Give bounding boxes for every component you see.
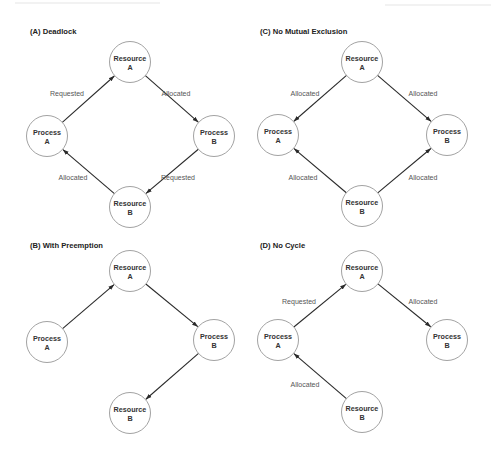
node-resA: ResourceA xyxy=(342,251,383,292)
node-label-line1: Resource xyxy=(346,198,379,207)
node-procA: ProcessA xyxy=(258,320,299,361)
panel-title: (C) No Mutual Exclusion xyxy=(260,27,348,36)
node-resB: ResourceB xyxy=(342,392,383,433)
node-resA: ResourceA xyxy=(342,42,383,83)
edge-label: Requested xyxy=(50,90,84,98)
node-label-line1: Resource xyxy=(346,404,379,413)
node-label-line2: A xyxy=(44,137,49,146)
edge-resB-to-procA xyxy=(63,150,114,194)
node-label-line2: A xyxy=(127,272,132,281)
node-procA: ProcessA xyxy=(27,322,68,363)
node-label-line2: A xyxy=(359,63,364,72)
node-label-line2: B xyxy=(127,208,132,217)
node-procB: ProcessB xyxy=(427,115,468,156)
edge-procA-to-resA xyxy=(62,76,114,122)
edge-label: Allocated xyxy=(409,90,438,97)
node-label-line1: Process xyxy=(33,334,61,343)
node-label-line2: A xyxy=(359,272,364,281)
node-label-line1: Resource xyxy=(114,405,147,414)
node-label-line2: B xyxy=(359,413,364,422)
node-procB: ProcessB xyxy=(427,320,468,361)
edge-label: Allocated xyxy=(409,174,438,181)
node-label-line2: B xyxy=(444,136,449,145)
node-label-line2: A xyxy=(275,341,280,350)
node-label-line1: Process xyxy=(433,332,461,341)
resource-allocation-graphs-figure: (A) DeadlockRequestedAllocatedRequestedA… xyxy=(0,0,491,460)
node-label-line1: Process xyxy=(33,128,61,137)
node-procB: ProcessB xyxy=(194,116,235,157)
node-label-line1: Resource xyxy=(346,263,379,272)
edge-label: Requested xyxy=(282,298,316,306)
node-label-line2: B xyxy=(359,207,364,216)
edge-resB-to-procB xyxy=(378,148,431,192)
edge-label: Allocated xyxy=(162,90,191,97)
node-label-line1: Process xyxy=(264,127,292,136)
node-label-line1: Process xyxy=(433,127,461,136)
node-resB: ResourceB xyxy=(110,393,151,434)
node-label-line1: Resource xyxy=(346,54,379,63)
node-procA: ProcessA xyxy=(258,115,299,156)
panels-root: (A) DeadlockRequestedAllocatedRequestedA… xyxy=(27,27,468,434)
edge-resA-to-procB xyxy=(145,76,198,123)
edge-resB-to-procA xyxy=(294,354,346,399)
edge-label: Allocated xyxy=(291,90,320,97)
edge-resB-to-procA xyxy=(294,149,346,193)
node-resB: ResourceB xyxy=(342,186,383,227)
node-label-line1: Process xyxy=(200,128,228,137)
node-procB: ProcessB xyxy=(194,320,235,361)
edge-resA-to-procB xyxy=(146,284,198,327)
node-procA: ProcessA xyxy=(27,116,68,157)
node-label-line1: Resource xyxy=(114,263,147,272)
edge-label: Allocated xyxy=(409,298,438,305)
panel-title: (B) With Preemption xyxy=(30,241,103,250)
edge-procB-to-resB xyxy=(146,149,198,193)
edge-resA-to-procA xyxy=(294,75,347,121)
node-label-line2: A xyxy=(44,343,49,352)
node-label-line2: B xyxy=(211,341,216,350)
node-label-line2: A xyxy=(275,136,280,145)
node-resB: ResourceB xyxy=(110,187,151,228)
edge-procA-to-resA xyxy=(63,285,114,329)
node-label-line2: A xyxy=(127,63,132,72)
edge-label: Requested xyxy=(161,174,195,182)
node-resA: ResourceA xyxy=(110,251,151,292)
panel-title: (D) No Cycle xyxy=(260,241,305,250)
node-label-line1: Process xyxy=(264,332,292,341)
edge-label: Allocated xyxy=(289,174,318,181)
node-resA: ResourceA xyxy=(110,42,151,83)
node-label-line2: B xyxy=(127,414,132,423)
edge-procB-to-resB xyxy=(146,353,199,399)
node-label-line2: B xyxy=(211,137,216,146)
panel-a: (A) DeadlockRequestedAllocatedRequestedA… xyxy=(27,27,235,228)
node-label-line2: B xyxy=(444,341,449,350)
panel-title: (A) Deadlock xyxy=(30,27,77,36)
panel-d: (D) No CycleRequestedAllocatedAllocatedR… xyxy=(258,241,468,433)
node-label-line1: Resource xyxy=(114,54,147,63)
edge-label: Allocated xyxy=(59,174,88,181)
panel-c: (C) No Mutual ExclusionAllocatedAllocate… xyxy=(258,27,468,227)
node-label-line1: Process xyxy=(200,332,228,341)
edge-resA-to-procB xyxy=(378,284,431,327)
edge-label: Allocated xyxy=(291,381,320,388)
node-label-line1: Resource xyxy=(114,199,147,208)
edge-procA-to-resA xyxy=(294,284,346,327)
edge-resA-to-procB xyxy=(378,75,432,121)
panel-b: (B) With PreemptionResourceAProcessAProc… xyxy=(27,241,235,434)
